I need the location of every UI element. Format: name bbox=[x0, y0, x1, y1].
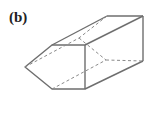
top-edge-right bbox=[85, 16, 143, 45]
pentagonal-prism-diagram bbox=[0, 0, 150, 115]
bottom-edge-right bbox=[85, 61, 143, 89]
hidden-edge-left bbox=[25, 38, 79, 67]
front-face bbox=[25, 45, 85, 89]
hidden-edge-bottom bbox=[52, 60, 106, 89]
hidden-back-upper bbox=[79, 16, 107, 38]
top-edge-left bbox=[52, 16, 107, 45]
hidden-back-bottom bbox=[106, 60, 143, 61]
